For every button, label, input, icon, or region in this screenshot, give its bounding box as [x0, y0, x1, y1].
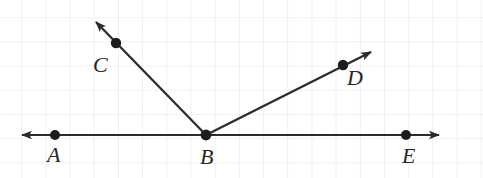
- point-label-e: E: [402, 145, 416, 167]
- point-label-b: B: [200, 146, 214, 168]
- point-label-c: C: [93, 54, 108, 76]
- point-e: [401, 130, 411, 140]
- point-c: [111, 38, 121, 48]
- point-label-d: D: [347, 67, 363, 89]
- point-b: [201, 130, 212, 141]
- point-label-a: A: [47, 144, 61, 166]
- ray-bc: [96, 22, 206, 135]
- geometry-figure: C D A B E: [0, 0, 483, 178]
- point-a: [50, 130, 60, 140]
